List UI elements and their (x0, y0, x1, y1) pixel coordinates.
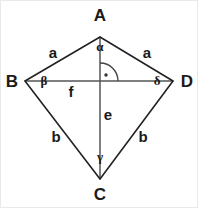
vertex-label-d: D (181, 72, 193, 91)
vertex-label-a: A (94, 6, 106, 25)
side-label-ad: a (143, 44, 152, 61)
kite-diagram-svg: A B C D a a b b e f α β γ δ (1, 1, 198, 208)
side-label-dc: b (138, 128, 147, 145)
angle-label-beta: β (41, 73, 48, 88)
vertex-label-b: B (6, 72, 18, 91)
diagonal-label-e: e (104, 106, 112, 123)
right-angle-dot-icon (104, 73, 107, 76)
diagonal-label-f: f (69, 83, 75, 100)
angle-label-alpha: α (96, 39, 104, 54)
geometry-figure-canvas: A B C D a a b b e f α β γ δ (0, 0, 198, 208)
angle-label-delta: δ (154, 73, 161, 88)
side-label-bc: b (51, 128, 60, 145)
vertex-label-c: C (94, 185, 106, 204)
side-label-ab: a (49, 44, 58, 61)
right-angle-arc-icon (100, 63, 118, 81)
angle-label-gamma: γ (96, 149, 103, 164)
